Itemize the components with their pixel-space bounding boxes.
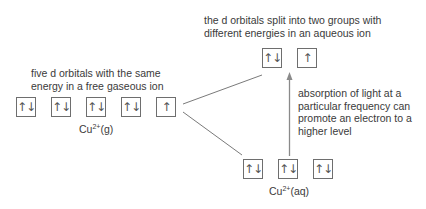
ion-state: (aq) [290,185,309,197]
split-line-upper [183,75,262,104]
orbital-box: ↑ [297,48,317,68]
split-line-lower [183,112,242,155]
aqueous-ion-line-1: the d orbitals split into two groups wit… [204,14,381,27]
absorption-line-1: absorption of light at a [298,87,412,100]
absorption-line-4: higher level [298,125,412,138]
absorption-annotation: absorption of light at a particular freq… [298,87,412,137]
orbital-box: ↑↓ [313,159,333,179]
aqueous-ion-annotation: the d orbitals split into two groups wit… [204,14,381,39]
orbital-box: ↑↓ [51,97,71,117]
aqueous-ion-line-2: different energies in an aqueous ion [204,27,381,40]
orbital-box: ↑↓ [86,97,106,117]
absorption-line-3: promote an electron to a [298,112,412,125]
gaseous-ion-label: Cu2+(g) [79,123,113,135]
orbital-box: ↑↓ [121,97,141,117]
orbital-box: ↑↓ [16,97,36,117]
orbital-box: ↑↓ [262,48,282,68]
ion-symbol: Cu [269,185,282,197]
ion-symbol: Cu [79,123,92,135]
ion-state: (g) [100,123,113,135]
absorption-line-2: particular frequency can [298,100,412,113]
free-ion-line-1: five d orbitals with the same [31,67,164,80]
free-ion-line-2: energy in a free gaseous ion [31,80,164,93]
absorption-arrow-head [287,72,293,80]
free-ion-annotation: five d orbitals with the same energy in … [31,67,164,92]
orbital-box: ↑ [156,97,176,117]
orbital-box: ↑↓ [278,159,298,179]
aqueous-ion-label: Cu2+(aq) [269,185,309,197]
orbital-box: ↑↓ [243,159,263,179]
